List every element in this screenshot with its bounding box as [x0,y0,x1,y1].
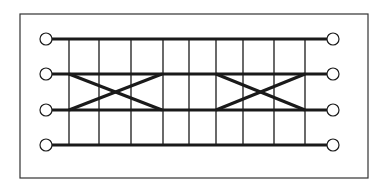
vertical-rungs [69,39,305,145]
left-terminal-4-icon [40,139,52,151]
left-terminal-1-icon [40,33,52,45]
left-terminal-2-icon [40,68,52,80]
left-terminal-3-icon [40,104,52,116]
right-terminal-4-icon [327,139,339,151]
crossover-group [69,74,305,110]
twisted-ladder-diagram [0,0,387,187]
right-terminal-1-icon [327,33,339,45]
right-terminal-2-icon [327,68,339,80]
right-terminal-3-icon [327,104,339,116]
